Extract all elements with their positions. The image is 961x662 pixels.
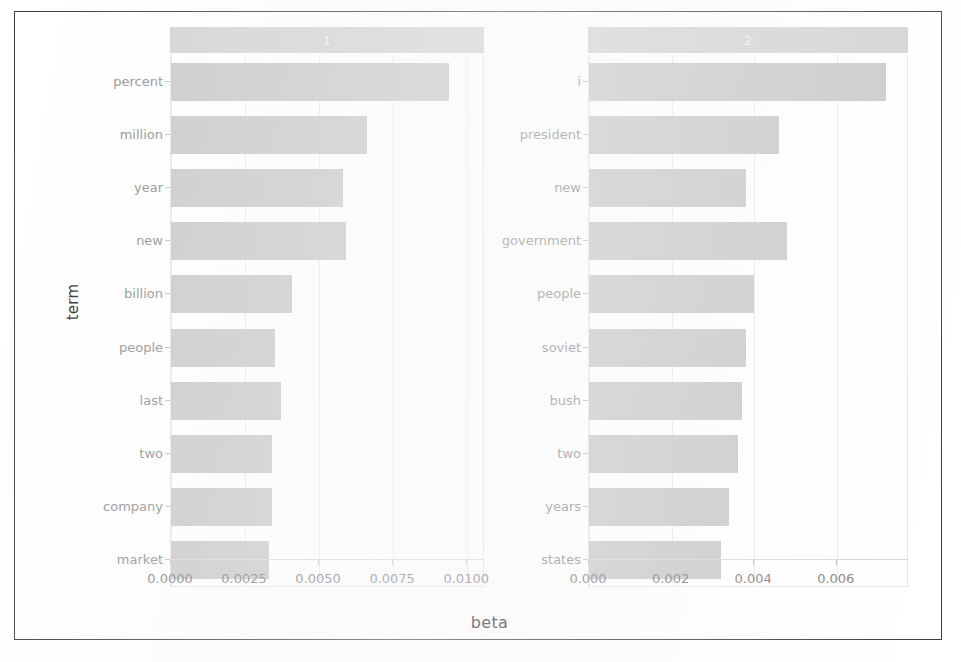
- y-tick-mark: [165, 347, 170, 348]
- y-tick-mark: [583, 347, 588, 348]
- y-tick-label: years: [451, 488, 581, 526]
- x-tick-mark: [836, 560, 837, 565]
- plot-panel-1: percentmillionyearnewbillionpeoplelasttw…: [170, 55, 484, 587]
- y-tick-label: billion: [33, 275, 163, 313]
- bar[interactable]: [171, 275, 292, 313]
- x-tick-mark: [753, 560, 754, 565]
- y-tick-label: government: [451, 222, 581, 260]
- y-tick-label: soviet: [451, 329, 581, 367]
- y-tick-mark: [165, 400, 170, 401]
- y-tick-label: million: [33, 116, 163, 154]
- y-tick-label: year: [33, 169, 163, 207]
- bar[interactable]: [589, 329, 746, 367]
- y-tick-label: bush: [451, 382, 581, 420]
- y-tick-label: two: [451, 435, 581, 473]
- y-tick-label: president: [451, 116, 581, 154]
- bar[interactable]: [171, 329, 275, 367]
- y-tick-mark: [165, 81, 170, 82]
- x-axis-line-2: [588, 559, 908, 560]
- plot-canvas: term beta 1 percentmillionyearnewbillion…: [0, 0, 961, 662]
- y-tick-label: market: [33, 541, 163, 579]
- y-tick-mark: [165, 187, 170, 188]
- bar-row[interactable]: bush: [589, 382, 909, 420]
- bar-row[interactable]: million: [171, 116, 485, 154]
- y-tick-label: two: [33, 435, 163, 473]
- y-tick-label: people: [33, 329, 163, 367]
- y-tick-mark: [165, 134, 170, 135]
- x-tick-mark: [588, 560, 589, 565]
- bar[interactable]: [171, 382, 281, 420]
- bar-row[interactable]: government: [589, 222, 909, 260]
- figure-root: term beta 1 percentmillionyearnewbillion…: [0, 0, 961, 662]
- facet-strip-label-1: 1: [170, 27, 484, 53]
- bar-row[interactable]: two: [589, 435, 909, 473]
- bar-row[interactable]: president: [589, 116, 909, 154]
- bar[interactable]: [171, 63, 449, 101]
- x-tick-mark: [671, 560, 672, 565]
- bar[interactable]: [171, 169, 343, 207]
- y-tick-label: states: [451, 541, 581, 579]
- y-tick-mark: [165, 293, 170, 294]
- plot-panel-2: ipresidentnewgovernmentpeoplesovietbusht…: [588, 55, 908, 587]
- y-tick-mark: [583, 187, 588, 188]
- x-tick-label: 0.0025: [221, 571, 267, 586]
- y-tick-mark: [583, 81, 588, 82]
- bar-row[interactable]: i: [589, 63, 909, 101]
- bar-row[interactable]: soviet: [589, 329, 909, 367]
- bar-row[interactable]: two: [171, 435, 485, 473]
- x-tick-label: 0.0050: [295, 571, 341, 586]
- bar-row[interactable]: last: [171, 382, 485, 420]
- x-tick-label: 0.004: [735, 571, 772, 586]
- y-tick-mark: [165, 240, 170, 241]
- x-axis-title: beta: [471, 613, 508, 632]
- y-tick-mark: [583, 506, 588, 507]
- bar-row[interactable]: people: [589, 275, 909, 313]
- bar-row[interactable]: company: [171, 488, 485, 526]
- bar-row[interactable]: year: [171, 169, 485, 207]
- bar[interactable]: [171, 488, 272, 526]
- y-tick-label: last: [33, 382, 163, 420]
- x-axis-line-1: [170, 559, 484, 560]
- y-tick-mark: [165, 506, 170, 507]
- bar[interactable]: [589, 488, 729, 526]
- x-tick-mark: [244, 560, 245, 565]
- bar[interactable]: [589, 63, 886, 101]
- y-tick-label: percent: [33, 63, 163, 101]
- bar[interactable]: [589, 275, 754, 313]
- x-tick-label: 0.0075: [369, 571, 415, 586]
- y-tick-mark: [583, 240, 588, 241]
- bar[interactable]: [589, 116, 779, 154]
- bar[interactable]: [589, 435, 738, 473]
- y-tick-mark: [583, 293, 588, 294]
- y-tick-mark: [583, 400, 588, 401]
- bar-row[interactable]: new: [589, 169, 909, 207]
- bar[interactable]: [589, 222, 787, 260]
- x-tick-mark: [170, 560, 171, 565]
- bar[interactable]: [171, 116, 367, 154]
- y-tick-label: company: [33, 488, 163, 526]
- x-tick-label: 0.006: [817, 571, 854, 586]
- y-tick-mark: [583, 453, 588, 454]
- x-tick-mark: [318, 560, 319, 565]
- bar-row[interactable]: new: [171, 222, 485, 260]
- bar-row[interactable]: billion: [171, 275, 485, 313]
- x-tick-label: 0.002: [652, 571, 689, 586]
- facet-strip-label-2: 2: [588, 27, 908, 53]
- x-tick-mark: [392, 560, 393, 565]
- y-tick-label: new: [33, 222, 163, 260]
- bar-row[interactable]: people: [171, 329, 485, 367]
- bar-row[interactable]: percent: [171, 63, 485, 101]
- bar[interactable]: [589, 169, 746, 207]
- bar[interactable]: [171, 435, 272, 473]
- y-tick-mark: [583, 134, 588, 135]
- x-axis-title-wrapper: beta: [0, 613, 961, 632]
- bar-row[interactable]: years: [589, 488, 909, 526]
- bar[interactable]: [589, 382, 742, 420]
- y-tick-mark: [165, 453, 170, 454]
- x-tick-label: 0.0000: [147, 571, 193, 586]
- bar[interactable]: [171, 222, 346, 260]
- y-tick-label: people: [451, 275, 581, 313]
- y-tick-label: i: [451, 63, 581, 101]
- x-tick-label: 0.000: [569, 571, 606, 586]
- y-tick-label: new: [451, 169, 581, 207]
